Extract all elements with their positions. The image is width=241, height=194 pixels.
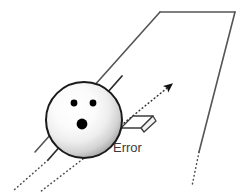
finger-hole-thumb xyxy=(77,119,88,130)
actual-path-dotted xyxy=(14,160,48,190)
diagram-canvas: Error xyxy=(0,0,241,194)
finger-hole-right-top xyxy=(90,100,97,107)
finger-hole-left-top xyxy=(71,100,78,107)
lane-right-edge xyxy=(199,12,235,152)
bowling-diagram-figure: Error xyxy=(0,0,241,194)
error-label: Error xyxy=(113,140,143,155)
lane-right-edge-dotted xyxy=(192,152,199,186)
bowling-ball xyxy=(46,82,122,158)
error-marker xyxy=(121,116,156,132)
